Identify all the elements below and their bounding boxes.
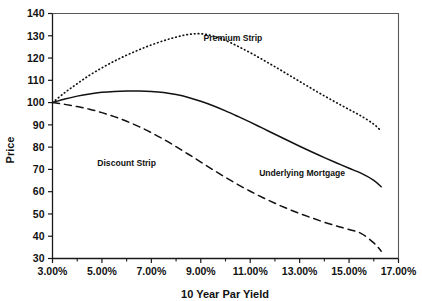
y-tick-label: 60 <box>33 185 45 197</box>
x-tick-label: 9.00% <box>186 265 216 277</box>
x-tick-label: 13.00% <box>282 265 318 277</box>
x-tick-label: 17.00% <box>381 265 417 277</box>
chart-page: 304050607080901001101201301403.00%5.00%7… <box>0 0 422 301</box>
data-series-curves <box>53 34 382 251</box>
price-vs-yield-line-chart: 304050607080901001101201301403.00%5.00%7… <box>0 0 422 301</box>
series-curve-premium-strip <box>53 34 382 131</box>
x-tick-label: 5.00% <box>87 265 117 277</box>
series-annotations: Premium StripUnderlying MortgageDiscount… <box>97 33 345 178</box>
plot-frame-top-right <box>53 14 399 259</box>
axis-tick-labels: 304050607080901001101201301403.00%5.00%7… <box>27 7 417 276</box>
y-tick-label: 50 <box>33 208 45 220</box>
y-tick-label: 80 <box>33 141 45 153</box>
series-label-underlying-mortgage: Underlying Mortgage <box>259 168 345 178</box>
series-label-premium-strip: Premium Strip <box>204 33 263 43</box>
y-tick-label: 120 <box>27 52 45 64</box>
x-tick-label: 3.00% <box>38 265 68 277</box>
plot-axes-left-bottom <box>53 14 399 259</box>
y-tick-label: 70 <box>33 163 45 175</box>
x-tick-label: 11.00% <box>233 265 269 277</box>
y-tick-label: 100 <box>27 96 45 108</box>
y-tick-label: 130 <box>27 30 45 42</box>
y-tick-label: 40 <box>33 230 45 242</box>
y-tick-label: 30 <box>33 252 45 264</box>
y-tick-label: 90 <box>33 119 45 131</box>
axis-ticks <box>48 14 399 264</box>
x-tick-label: 7.00% <box>136 265 166 277</box>
x-tick-label: 15.00% <box>331 265 367 277</box>
series-label-discount-strip: Discount Strip <box>97 158 156 168</box>
y-tick-label: 110 <box>28 74 45 86</box>
plot-frame <box>53 14 399 259</box>
y-axis-title: Price <box>4 137 16 164</box>
x-axis-title: 10 Year Par Yield <box>181 288 269 300</box>
y-tick-label: 140 <box>27 7 45 19</box>
